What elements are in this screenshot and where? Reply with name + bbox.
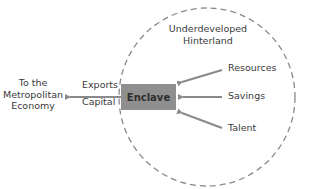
enclave-box: Enclave: [121, 84, 176, 110]
enclave-label: Enclave: [127, 92, 170, 103]
hinterland-label: Underdeveloped Hinterland: [166, 23, 250, 46]
inflow-arrow-talent: [182, 113, 222, 128]
inflow-arrow-resources: [182, 70, 222, 82]
enclave-hinterland-diagram: Underdeveloped Hinterland Enclave To the…: [0, 0, 325, 189]
hinterland-label-line1: Underdeveloped: [166, 23, 250, 35]
inflow-label-savings: Savings: [228, 90, 265, 102]
outflow-label-exports: Exports: [82, 79, 118, 91]
inflow-label-talent: Talent: [228, 122, 256, 134]
destination-line3: Economy: [0, 100, 66, 112]
destination-line1: To the: [0, 77, 66, 89]
outflow-label-capital: Capital: [82, 96, 115, 108]
destination-line2: Metropolitan: [0, 89, 66, 101]
inflow-label-resources: Resources: [228, 62, 277, 74]
hinterland-label-line2: Hinterland: [166, 35, 250, 47]
destination-label: To the Metropolitan Economy: [0, 77, 66, 112]
